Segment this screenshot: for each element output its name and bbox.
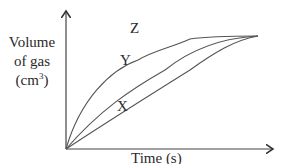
x-axis-label: Time (s): [131, 150, 182, 164]
curve-label-x: X: [117, 98, 128, 115]
y-label-line-1: Volume: [2, 33, 62, 52]
curve-label-y: Y: [120, 52, 131, 69]
curve-z: [66, 36, 258, 149]
y-axis-label: Volume of gas (cm3): [2, 33, 62, 90]
y-label-line-3: (cm3): [2, 71, 62, 90]
y-label-line-2: of gas: [2, 52, 62, 71]
curve-label-z: Z: [130, 20, 139, 37]
